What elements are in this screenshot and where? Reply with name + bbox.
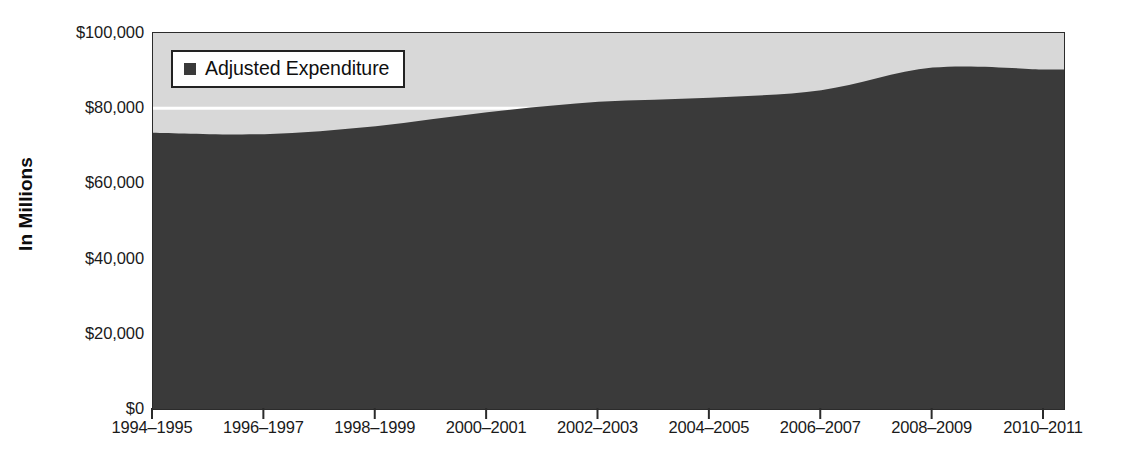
chart-figure: In Millions $0$20,000$40,000$60,000$80,0… [0, 0, 1131, 467]
y-axis-tick-label: $40,000 [40, 248, 144, 267]
y-axis-tick-label: $20,000 [40, 323, 144, 342]
y-axis-tick-label: $60,000 [40, 173, 144, 192]
y-axis-tick-label: $100,000 [40, 23, 144, 42]
legend-swatch-icon [184, 63, 196, 75]
x-axis-tick-label: 1996–1997 [223, 418, 304, 437]
series-area-adjusted-expenditure [153, 66, 1064, 409]
x-axis-tick-label: 1994–1995 [112, 418, 193, 437]
x-axis-tick-label: 2010–2011 [1003, 418, 1083, 437]
y-axis-title-text: In Millions [15, 157, 37, 251]
x-axis-tick-label: 2004–2005 [668, 418, 749, 437]
legend-entry-label: Adjusted Expenditure [205, 57, 389, 80]
x-axis-tick-labels: 1994–19951996–19971998–19992000–20012002… [0, 418, 1131, 448]
y-axis-tick-label: $0 [40, 399, 144, 418]
x-axis-tick-label: 2000–2001 [446, 418, 527, 437]
x-axis-tick-label: 2006–2007 [780, 418, 861, 437]
x-axis-tick-label: 1998–1999 [334, 418, 415, 437]
x-axis-tick-label: 2008–2009 [891, 418, 972, 437]
area-chart-svg [153, 33, 1064, 409]
y-axis-tick-label: $80,000 [40, 98, 144, 117]
chart-legend: Adjusted Expenditure [171, 50, 405, 88]
y-axis-tick-labels: $0$20,000$40,000$60,000$80,000$100,000 [36, 0, 144, 467]
x-axis-tick-label: 2002–2003 [557, 418, 638, 437]
plot-area [152, 32, 1065, 410]
